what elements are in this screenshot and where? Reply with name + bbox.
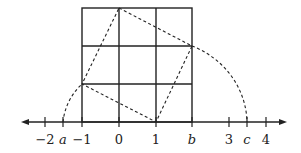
tilted-square xyxy=(82,8,192,122)
axis-labels: −2a−101b3c4 xyxy=(35,132,270,147)
right-arrow-icon xyxy=(279,119,287,125)
tick-label: 3 xyxy=(225,132,233,147)
number-line-diagram: −2a−101b3c4 xyxy=(0,0,301,153)
left-arrow-icon xyxy=(21,119,29,125)
diagram-canvas: −2a−101b3c4 xyxy=(0,0,301,153)
tick-label: b xyxy=(188,132,196,147)
tick-label: c xyxy=(243,132,251,147)
square-grid xyxy=(82,8,192,122)
left-arc xyxy=(63,84,82,122)
tick-label: a xyxy=(59,132,67,147)
tick-label: 0 xyxy=(115,132,123,147)
tick-label: 1 xyxy=(152,132,160,147)
tick-label: −1 xyxy=(72,132,91,147)
tick-label: −2 xyxy=(35,132,54,147)
right-arc xyxy=(192,46,247,122)
tick-label: 4 xyxy=(262,132,270,147)
